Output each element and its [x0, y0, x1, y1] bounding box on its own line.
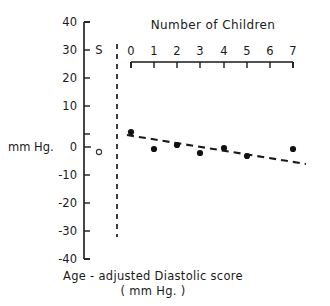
y-tick-label: -40 [58, 252, 77, 266]
caption-line-1: Age - adjusted Diastolic score [63, 269, 243, 283]
y-tick-label: 30 [62, 43, 77, 57]
chart-figure: 40 30 20 10 0 -10 -20 -30 -40 mm Hg. S [0, 0, 330, 306]
data-point [174, 142, 180, 148]
x-axis-tick-labels: 0 1 2 3 4 5 6 7 [127, 44, 296, 58]
chart-title: Number of Children [151, 18, 276, 32]
y-tick-label: 40 [62, 15, 77, 29]
data-point [197, 150, 203, 156]
y-tick-label: 10 [62, 99, 77, 113]
y-axis-spine [84, 22, 90, 259]
x-tick-label: 7 [289, 44, 296, 58]
reference-open-circle-marker [96, 149, 101, 154]
x-tick-label: 6 [266, 44, 273, 58]
x-axis-ticks [131, 62, 293, 68]
data-points [128, 129, 296, 159]
y-tick-label: 20 [62, 71, 77, 85]
y-tick-label: 0 [70, 140, 77, 154]
data-point [221, 145, 227, 151]
data-point [244, 153, 250, 159]
data-point [290, 146, 296, 152]
y-axis-tick-labels: 40 30 20 10 0 -10 -20 -30 -40 [58, 15, 77, 266]
y-tick-label: -30 [58, 224, 77, 238]
data-point [128, 129, 134, 135]
x-tick-label: 0 [127, 44, 134, 58]
caption-line-2: ( mm Hg. ) [121, 284, 186, 298]
y-axis-ticks [84, 22, 91, 259]
x-tick-label: 3 [196, 44, 203, 58]
y-tick-label: -20 [58, 196, 77, 210]
scatter-plot-svg: 40 30 20 10 0 -10 -20 -30 -40 mm Hg. S [0, 0, 330, 306]
y-tick-label: -10 [58, 168, 77, 182]
x-tick-label: 2 [173, 44, 180, 58]
x-tick-label: 5 [243, 44, 250, 58]
reference-label-s: S [95, 43, 102, 57]
y-axis-label: mm Hg. [8, 140, 54, 154]
x-tick-label: 1 [150, 44, 157, 58]
data-point [151, 146, 157, 152]
x-tick-label: 4 [220, 44, 227, 58]
x-axis-spine [131, 62, 293, 68]
